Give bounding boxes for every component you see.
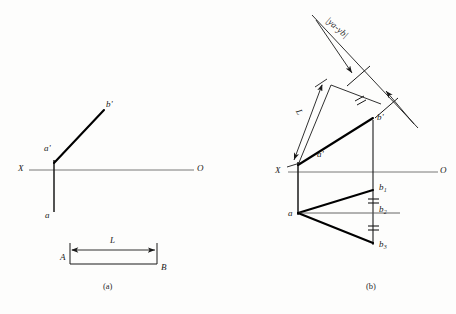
panel-a-line-ab-prime [54,110,104,163]
panel-b-hash-mark-1 [355,96,364,101]
panel-b-rotated-chord [331,85,381,104]
panel-b-label-x-axis: X [275,166,281,175]
panel-a-label-dim-B: B [161,263,167,272]
panel-b-tick-upper-cross [347,66,370,86]
panel-b-hash-mark-2 [357,100,366,105]
panel-b-label-b1: b1 [379,183,387,193]
figure-root: b' a' a X O L A B (a) |ya-yb| L b' a' a … [0,0,456,314]
panel-a-label-x-axis: X [18,164,24,173]
panel-a-caption: (a) [103,281,112,291]
panel-b-rotation-ray-left [298,85,331,165]
panel-b-line-ab-prime [298,118,373,165]
panel-b-label-b3: b3 [379,240,387,250]
panel-a-label-o-axis: O [197,164,204,173]
panel-b-dim-L-ext-top [315,79,327,87]
panel-b-delta-y-line [312,15,418,128]
panel-a-label-b-prime: b' [106,100,113,109]
panel-a-label-dim-A: A [60,253,66,262]
panel-b-label-b3-sub: 3 [384,244,387,250]
panel-b-line-a-b3 [298,213,373,243]
panel-b-caption: (b) [366,281,376,291]
panel-b-group [287,15,438,245]
panel-b-label-a: a [288,209,293,218]
panel-b-label-b-prime: b' [377,113,384,122]
panel-b-label-b2: b2 [379,205,387,215]
panel-b-label-a-prime: a' [317,150,324,159]
panel-b-delta-y-arrow-lower [386,91,414,124]
panel-a-label-a: a [45,211,50,220]
panel-b-line-a-b1 [298,190,373,213]
panel-a-label-a-prime: a' [44,144,51,153]
panel-a-label-dim-L: L [110,236,115,245]
panel-b-label-o-axis: O [440,166,447,175]
panel-b-label-b1-sub: 1 [384,187,387,193]
panel-b-label-b2-sub: 2 [384,209,387,215]
technical-drawing-canvas [0,0,456,314]
